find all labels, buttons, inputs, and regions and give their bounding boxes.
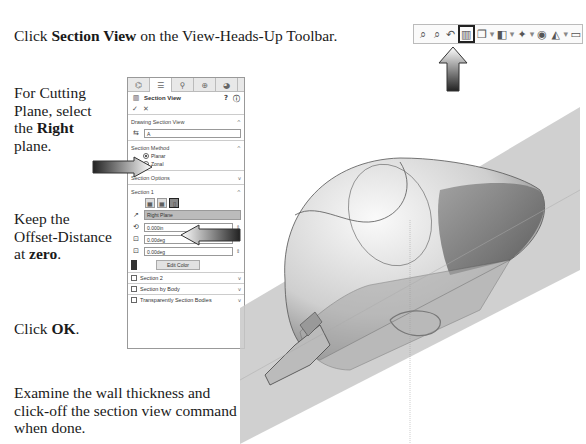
hide-show-icon[interactable]: ✦ <box>516 27 529 41</box>
section-view-model[interactable] <box>240 100 586 444</box>
feature-manager-tab[interactable]: ⌬ <box>128 78 150 92</box>
manager-tabs: ⌬ ☰ ⚲ ⊕ ◕ <box>128 78 244 92</box>
section-view-icon[interactable]: ▥ <box>458 25 475 43</box>
zoom-to-fit-icon[interactable]: ⌕ <box>417 27 430 41</box>
view-settings-icon[interactable]: ▭ <box>569 27 582 41</box>
group-label: Section Method <box>131 145 169 151</box>
property-manager-tab[interactable]: ☰ <box>150 78 172 92</box>
section-2-checkbox[interactable] <box>131 275 137 281</box>
pm-header: ▥ Section View ? ⓘ <box>128 92 244 104</box>
color-swatch <box>131 260 137 270</box>
right-arrow-callout-icon <box>92 156 154 178</box>
section-label-icon: ⇆ <box>131 128 141 138</box>
section-view-property-manager: ⌬ ☰ ⚲ ⊕ ◕ ▥ Section View ? ⓘ ✓ ✕ Drawing… <box>127 77 245 349</box>
instruction-step-1: Click Section View on the View-Heads-Up … <box>14 27 337 45</box>
previous-view-icon[interactable]: ↶ <box>444 27 457 41</box>
dropdown-icon[interactable]: ▾ <box>529 29 534 39</box>
instruction-step-4: Click OK. <box>14 320 79 338</box>
edit-color-button[interactable]: Edit Color <box>156 260 200 270</box>
radio-planar[interactable]: Planar <box>143 152 241 160</box>
drawing-section-view-group: Drawing Section View^ ⇆ A <box>128 114 244 140</box>
offset-distance-icon: ⟲ <box>131 222 141 232</box>
zoom-to-area-icon[interactable]: ⌕ <box>431 27 444 41</box>
configuration-manager-tab[interactable]: ⚲ <box>172 78 194 92</box>
section-by-body-checkbox[interactable] <box>131 286 137 292</box>
section-plane-field[interactable]: Right Plane <box>144 210 241 220</box>
view-orientation-icon[interactable]: ❐ <box>476 27 489 41</box>
section-2-group: Section 2v <box>128 272 244 283</box>
display-style-icon[interactable]: ◧ <box>496 27 509 41</box>
dimxpert-manager-tab[interactable]: ⊕ <box>194 78 216 92</box>
top-plane-button[interactable]: ▦ <box>157 198 167 208</box>
transparently-section-bodies-checkbox[interactable] <box>131 297 137 303</box>
instruction-step-2: For Cutting Plane, select the Right plan… <box>14 84 114 154</box>
reverse-direction-icon[interactable]: ↗ <box>131 210 141 220</box>
y-rotation-input[interactable]: 0.00deg <box>144 247 233 256</box>
radio-zonal[interactable]: Zonal <box>143 160 241 168</box>
x-rotation-icon: ⊡ <box>131 234 141 244</box>
dropdown-icon[interactable]: ▾ <box>563 29 568 39</box>
ok-button[interactable]: ✓ <box>132 105 138 113</box>
pm-title: Section View <box>144 95 221 101</box>
group-label: Section 1 <box>131 189 154 195</box>
left-arrow-callout-icon <box>180 224 242 246</box>
display-manager-tab[interactable]: ◕ <box>216 78 238 92</box>
apply-scene-icon[interactable]: ◭ <box>549 27 562 41</box>
section-view-icon: ▥ <box>131 93 141 103</box>
section-name-input[interactable]: A <box>144 129 241 138</box>
section-by-body-group: Section by Bodyv <box>128 283 244 294</box>
dropdown-icon[interactable]: ▾ <box>489 29 494 39</box>
up-arrow-callout-icon <box>438 46 468 92</box>
help-icon[interactable]: ? <box>221 93 231 103</box>
right-plane-button[interactable]: ▯ <box>169 198 179 208</box>
front-plane-button[interactable]: ▦ <box>145 198 155 208</box>
cancel-button[interactable]: ✕ <box>143 105 149 113</box>
dropdown-icon[interactable]: ▾ <box>509 29 514 39</box>
view-heads-up-toolbar: ⌕ ⌕ ↶ ▥ ❐ ▾ ◧ ▾ ✦ ▾ ◉ ◭ ▾ ▭ <box>413 24 583 44</box>
instruction-step-3: Keep the Offset-Distance at zero. <box>14 210 114 263</box>
y-rotation-icon: ⊡ <box>131 246 141 256</box>
group-label: Drawing Section View <box>131 119 184 125</box>
edit-appearance-icon[interactable]: ◉ <box>536 27 549 41</box>
instruction-step-5: Examine the wall thickness and click-off… <box>14 384 244 437</box>
transparently-section-bodies-group: Transparently Section Bodiesv <box>128 294 244 305</box>
